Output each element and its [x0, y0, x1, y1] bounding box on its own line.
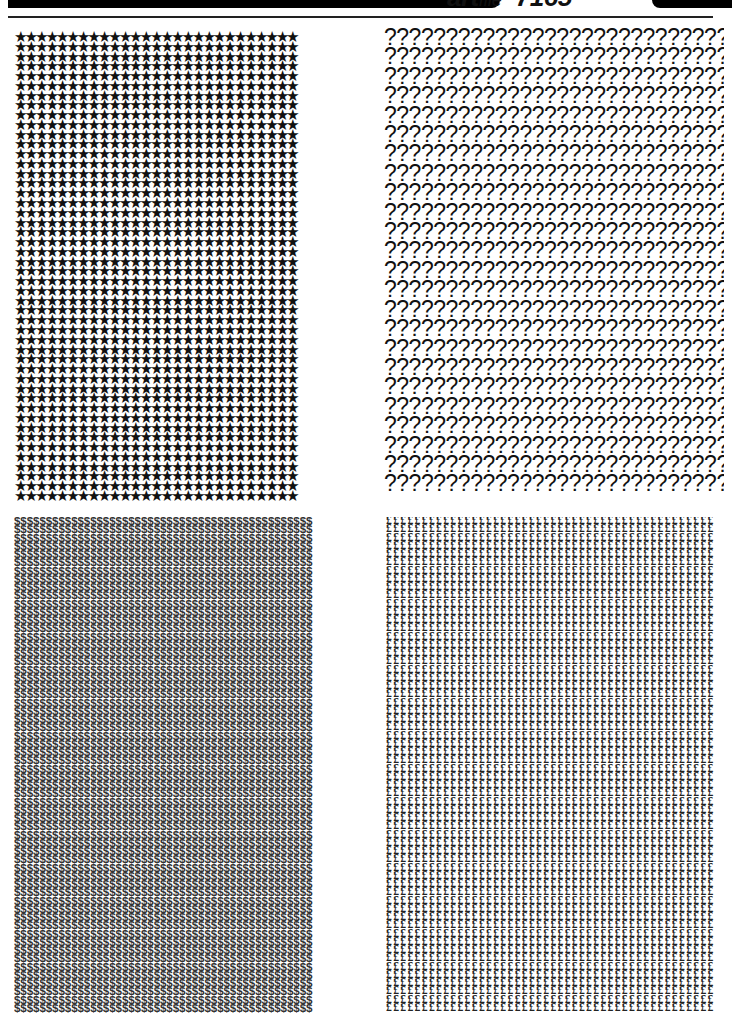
- question-mark-pattern-panel: ????????????????????????????? ??????????…: [384, 28, 724, 502]
- header-bar: [8, 0, 500, 8]
- catalog-number: 7165: [516, 0, 572, 12]
- brand-bold: art: [447, 0, 479, 12]
- brand-light: file: [479, 0, 502, 10]
- header-rule: [8, 16, 713, 18]
- header-title: artfile7165: [447, 0, 572, 13]
- dollar-pattern-panel: $$$$$$$$$$$$$$$$$$$$$$$$$$$$$$$$$$$$$$$$…: [14, 517, 362, 1017]
- pound-pattern-panel: ££££££££££££££££££££££££££££££££££££££££…: [386, 517, 726, 1017]
- header-pill: [652, 0, 732, 8]
- asterisk-pattern-panel: ★★★★★★★★★★★★★★★★★★★★★★★★★★★ ★★★★★★★★★★★★…: [14, 30, 354, 507]
